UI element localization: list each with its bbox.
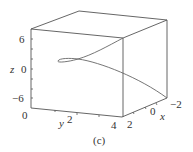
- space-curve: [58, 38, 167, 98]
- plot-3d-figure: 6 0 −6 z 0 2 4 y 2 0 −2 x (c): [0, 0, 193, 152]
- y-tick-0: 0: [22, 109, 28, 121]
- x-axis-label: x: [159, 110, 165, 122]
- figure-caption: (c): [93, 134, 106, 147]
- z-tick-neg6: −6: [12, 92, 24, 104]
- y-tick-2: 2: [67, 113, 73, 125]
- x-tick-0: 0: [150, 105, 156, 117]
- x-tick-2: 2: [127, 118, 133, 130]
- y-tick-4: 4: [111, 119, 117, 131]
- z-axis-label: z: [9, 63, 15, 75]
- plot-canvas: 6 0 −6 z 0 2 4 y 2 0 −2 x (c): [0, 0, 193, 152]
- z-tick-6: 6: [19, 33, 25, 45]
- z-tick-0: 0: [21, 63, 27, 75]
- y-axis-label: y: [58, 117, 64, 129]
- x-tick-neg2: −2: [170, 98, 182, 110]
